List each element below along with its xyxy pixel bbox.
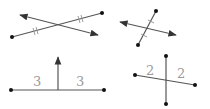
line-with-arrows (120, 22, 176, 35)
endpoint-dot (154, 9, 158, 13)
length-label: 3 (33, 74, 41, 89)
endpoint-dot (9, 88, 13, 92)
length-label: 2 (146, 63, 154, 78)
segment (135, 75, 195, 85)
endpoint-dot (164, 54, 168, 58)
length-label: 3 (76, 74, 84, 89)
geometry-diagram: 3 3 2 2 (0, 0, 210, 109)
length-label: 2 (177, 66, 185, 81)
panel-perpendicular-ray: 3 3 (9, 57, 106, 92)
endpoint-dot (100, 11, 104, 15)
panel-bisector-line (10, 11, 104, 39)
panel-bisecting-segments: 2 2 (133, 54, 197, 106)
endpoint-dot (193, 83, 197, 87)
panel-perpendicular-line (120, 9, 176, 47)
endpoint-dot (164, 102, 168, 106)
endpoint-dot (133, 73, 137, 77)
endpoint-dot (136, 43, 140, 47)
endpoint-dot (10, 35, 14, 39)
endpoint-dot (102, 88, 106, 92)
